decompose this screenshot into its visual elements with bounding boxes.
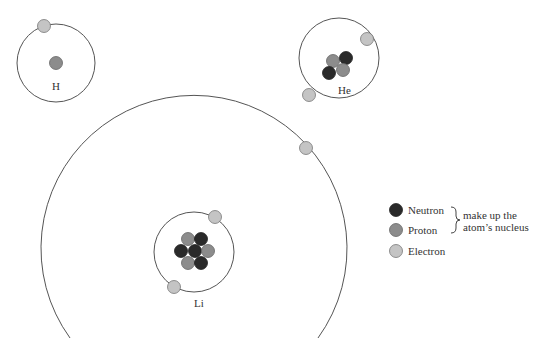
helium-neutron — [323, 67, 336, 80]
lithium-proton — [182, 257, 195, 270]
legend-neutron-label: Neutron — [408, 204, 445, 216]
hydrogen-electron — [38, 20, 51, 33]
helium-proton — [327, 55, 340, 68]
hydrogen-atom: H — [17, 20, 95, 103]
proton-legend-icon — [390, 224, 403, 237]
helium-label: He — [338, 84, 351, 96]
lithium-neutron — [175, 245, 188, 258]
hydrogen-label: H — [52, 80, 60, 92]
lithium-neutron — [195, 257, 208, 270]
helium-electron — [361, 33, 374, 46]
helium-neutron — [340, 52, 353, 65]
helium-atom: He — [299, 18, 379, 102]
lithium-neutron — [189, 245, 202, 258]
neutron-legend-icon — [390, 204, 403, 217]
legend-electron-label: Electron — [408, 245, 446, 257]
lithium-proton — [182, 233, 195, 246]
brace-note-line2: atom’s nucleus — [463, 221, 529, 233]
brace-icon — [451, 207, 460, 233]
lithium-electron — [168, 281, 181, 294]
legend: Neutron Proton Electron make up the atom… — [390, 204, 529, 258]
helium-electron — [303, 89, 316, 102]
hydrogen-proton — [50, 57, 63, 70]
lithium-proton — [202, 245, 215, 258]
lithium-electron — [300, 142, 313, 155]
lithium-electron — [209, 211, 222, 224]
electron-legend-icon — [390, 245, 403, 258]
helium-proton — [337, 64, 350, 77]
lithium-label: Li — [194, 297, 204, 309]
legend-proton-label: Proton — [408, 224, 438, 236]
brace-note-line1: make up the — [463, 209, 517, 221]
atom-diagram: H He Li Neutron Proton Electro — [0, 0, 540, 356]
lithium-neutron — [195, 233, 208, 246]
lithium-atom: Li — [41, 95, 347, 338]
